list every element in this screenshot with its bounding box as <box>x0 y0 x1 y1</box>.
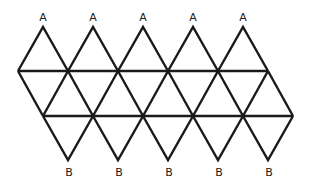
vertex-label-top: A <box>139 11 147 24</box>
vertex-label-bottom: B <box>115 166 123 179</box>
top-triangle-4 <box>168 27 218 71</box>
middle-diagonal <box>43 71 68 116</box>
net-lines <box>18 27 293 160</box>
middle-diagonal <box>118 71 143 116</box>
vertex-label-top: A <box>89 11 97 24</box>
middle-diagonal <box>268 71 293 116</box>
middle-diagonal <box>143 71 168 116</box>
middle-diagonal <box>18 71 43 116</box>
icosahedron-net-diagram: A A A A A B B B B B <box>0 0 313 188</box>
vertex-label-top: A <box>39 11 47 24</box>
middle-diagonal <box>243 71 268 116</box>
vertex-label-bottom: B <box>165 166 173 179</box>
vertex-label-top: A <box>189 11 197 24</box>
top-triangle-1 <box>18 27 68 71</box>
middle-diagonal <box>218 71 243 116</box>
top-triangle-2 <box>68 27 118 71</box>
net-drawing: A A A A A B B B B B <box>0 0 313 188</box>
bottom-triangle-5 <box>243 116 293 160</box>
vertex-label-bottom: B <box>265 166 273 179</box>
vertex-label-top: A <box>239 11 247 24</box>
middle-diagonal <box>193 71 218 116</box>
bottom-triangle-2 <box>93 116 143 160</box>
bottom-triangle-1 <box>43 116 93 160</box>
middle-diagonal <box>68 71 93 116</box>
top-triangle-3 <box>118 27 168 71</box>
top-triangle-5 <box>218 27 268 71</box>
bottom-triangle-3 <box>143 116 193 160</box>
bottom-triangle-4 <box>193 116 243 160</box>
vertex-label-bottom: B <box>65 166 73 179</box>
middle-diagonal <box>93 71 118 116</box>
vertex-label-bottom: B <box>215 166 223 179</box>
middle-diagonal <box>168 71 193 116</box>
